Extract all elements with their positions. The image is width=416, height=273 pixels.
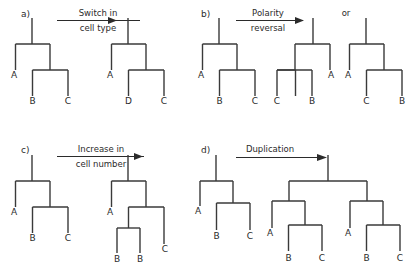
panel-a: a) Switch in cell type A B C — [11, 8, 167, 106]
leaf-label: C — [252, 96, 258, 106]
leaf-label: A — [328, 70, 335, 80]
panel-a-label: a) — [21, 9, 30, 19]
panel-a-arrow-label-bottom: cell type — [80, 23, 116, 33]
leaf-label: B — [363, 253, 369, 263]
panel-d-label: d) — [201, 145, 210, 155]
leaf-label: B — [29, 233, 35, 243]
panel-d-tree-before: A B C — [195, 155, 253, 241]
leaf-label: C — [363, 96, 369, 106]
panel-d-tree-duplicated: A B C A B C — [267, 155, 403, 263]
panel-b-arrow: Polarity reversal — [236, 8, 304, 33]
panel-a-tree-before: A B C — [11, 18, 71, 106]
leaf-label: B — [399, 96, 405, 106]
leaf-label: B — [213, 231, 219, 241]
panel-b-tree-before: A B C — [198, 18, 258, 106]
panel-c-label: c) — [21, 145, 29, 155]
panel-a-arrow-label-top: Switch in — [79, 8, 118, 18]
leaf-label: C — [274, 96, 280, 106]
cell-lineage-figure: a) Switch in cell type A B C — [0, 0, 416, 273]
panel-c-tree-before: A B C — [11, 155, 71, 243]
leaf-label: C — [397, 253, 403, 263]
panel-d-arrow-label-top: Duplication — [246, 144, 294, 154]
panel-c-tree-after: A B B C — [107, 155, 168, 264]
leaf-label: B — [114, 254, 120, 264]
leaf-label: A — [198, 70, 205, 80]
leaf-label: B — [137, 254, 143, 264]
leaf-label: A — [11, 70, 18, 80]
panel-b: b) Polarity reversal or A B C — [198, 8, 405, 106]
leaf-label: A — [345, 228, 352, 238]
leaf-label: A — [195, 206, 202, 216]
leaf-label: B — [216, 96, 222, 106]
panel-d-arrow: Duplication — [236, 144, 327, 161]
leaf-label: D — [125, 96, 132, 106]
leaf-label: C — [247, 231, 253, 241]
leaf-label: C — [65, 96, 71, 106]
leaf-label: A — [267, 228, 274, 238]
leaf-label: B — [285, 253, 291, 263]
panel-b-or-label: or — [342, 8, 351, 18]
panel-c-arrow: Increase in cell number — [57, 144, 144, 169]
leaf-label: C — [162, 244, 168, 254]
leaf-label: A — [107, 207, 114, 217]
panel-b-label: b) — [201, 9, 210, 19]
panel-d: d) Duplication A B C — [195, 144, 403, 263]
leaf-label: B — [29, 96, 35, 106]
leaf-label: B — [309, 96, 315, 106]
panel-b-arrow-label-bottom: reversal — [251, 23, 285, 33]
panel-c-arrow-head — [134, 153, 143, 160]
leaf-label: A — [345, 70, 352, 80]
leaf-label: C — [319, 253, 325, 263]
leaf-label: A — [107, 70, 114, 80]
panel-b-tree-relabeled: A C B — [345, 18, 405, 106]
leaf-label: A — [11, 207, 18, 217]
panel-d-arrow-head — [317, 154, 327, 161]
panel-c-arrow-label-bottom: cell number — [76, 159, 127, 169]
leaf-label: C — [161, 96, 167, 106]
panel-b-arrow-label-top: Polarity — [252, 8, 284, 18]
leaf-label: C — [65, 233, 71, 243]
panel-c: c) Increase in cell number A B C — [11, 144, 168, 264]
panel-c-arrow-label-top: Increase in — [78, 144, 124, 154]
panel-b-arrow-head — [295, 17, 304, 24]
